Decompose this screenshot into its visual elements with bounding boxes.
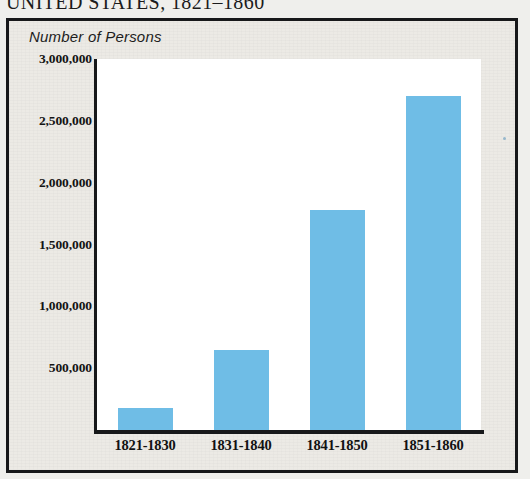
bar-1851-1860[interactable] [406,96,461,430]
x-tick-label: 1831-1840 [193,437,289,454]
y-tick-label: 3,000,000 [14,51,92,67]
y-axis-line [94,59,97,433]
bar-slot [289,59,385,430]
y-tick-label: 500,000 [14,360,92,376]
x-tick-label: 1851-1860 [385,437,481,454]
x-tick-label: 1821-1830 [97,437,193,454]
x-axis-tick-labels: 1821-18301831-18401841-18501851-1860 [97,437,487,465]
chart-panel: Number of Persons 3,000,0002,500,0002,00… [6,18,518,473]
y-axis-tick-labels: 3,000,0002,500,0002,000,0001,500,0001,00… [9,21,92,476]
y-tick-label: 2,500,000 [14,113,92,129]
x-tick-label: 1841-1850 [289,437,385,454]
bar-slot [97,59,193,430]
bar-1821-1830[interactable] [118,408,173,430]
ink-speck [503,137,506,140]
y-tick-label: 1,000,000 [14,298,92,314]
y-tick-label: 2,000,000 [14,175,92,191]
figure-title: UNITED STATES, 1821–1860 [6,0,426,15]
bar-1831-1840[interactable] [214,350,269,430]
bar-1841-1850[interactable] [310,210,365,430]
bar-slot [385,59,481,430]
x-axis-line [94,430,484,434]
plot-area [97,59,481,430]
bar-slot [193,59,289,430]
y-tick-label: 1,500,000 [14,237,92,253]
